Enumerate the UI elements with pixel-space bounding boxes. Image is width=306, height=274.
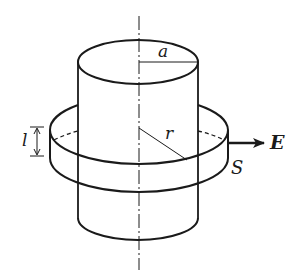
diagram-canvas	[0, 0, 306, 274]
inner-cylinder	[78, 40, 198, 240]
label-e: E	[270, 133, 284, 152]
label-r: r	[165, 125, 173, 142]
label-l: l	[22, 132, 27, 149]
radius-r-line	[139, 128, 187, 160]
label-a: a	[158, 43, 168, 60]
height-l-dimension	[30, 127, 44, 156]
label-s: S	[231, 159, 243, 177]
cylinder-gauss-diagram: a r l E S	[0, 0, 306, 274]
